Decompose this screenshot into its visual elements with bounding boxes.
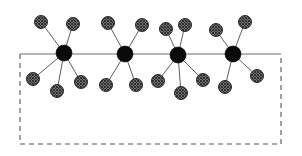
network-diagram	[0, 0, 302, 156]
hub-node-hub-2	[117, 46, 133, 62]
satellite-node-sat-1c	[27, 73, 40, 86]
satellite-node-sat-4a	[210, 24, 223, 37]
satellite-node-sat-4c	[219, 81, 232, 94]
satellite-node-sat-1d	[51, 85, 64, 98]
satellite-node-sat-1b	[67, 18, 80, 31]
satellite-node-sat-3c	[152, 75, 165, 88]
hub-node-hub-4	[225, 46, 241, 62]
satellite-node-sat-2b	[136, 19, 149, 32]
satellite-node-sat-2a	[102, 17, 115, 30]
satellite-node-sat-3e	[197, 74, 210, 87]
boundary-layer	[20, 54, 281, 144]
satellite-node-sat-3b	[179, 19, 192, 32]
satellite-node-sat-2c	[100, 79, 113, 92]
satellite-node-sat-4b	[239, 16, 252, 29]
satellite-node-sat-1a	[35, 16, 48, 29]
satellite-node-sat-3a	[160, 23, 173, 36]
satellite-node-sat-1e	[75, 76, 88, 89]
hub-node-hub-3	[170, 47, 186, 63]
figure-root	[0, 0, 302, 156]
satellite-node-sat-3d	[175, 87, 188, 100]
dashed-region-outline	[20, 54, 281, 144]
satellite-node-sat-2d	[130, 79, 143, 92]
hub-node-hub-1	[56, 45, 72, 61]
satellite-node-sat-4d	[251, 70, 264, 83]
